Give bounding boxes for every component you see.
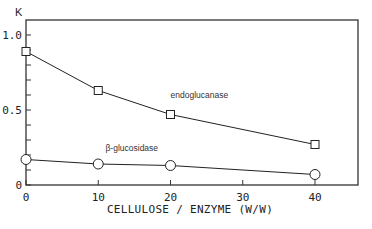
series-group: endoglucanaseβ-glucosidase bbox=[21, 48, 320, 180]
x-tick-label: 10 bbox=[92, 191, 105, 204]
series-label: β-glucosidase bbox=[105, 143, 158, 153]
y-tick-label: 0 bbox=[15, 179, 22, 192]
circle-marker bbox=[93, 159, 103, 169]
x-axis-title: CELLULOSE / ENZYME (W/W) bbox=[107, 203, 273, 216]
square-marker bbox=[167, 111, 175, 119]
square-marker bbox=[94, 87, 102, 95]
series-endoglucanase: endoglucanase bbox=[22, 48, 319, 149]
y-tick-label: 1.0 bbox=[2, 29, 22, 42]
x-axis-ticks: 010203040 bbox=[23, 180, 322, 204]
x-tick-label: 0 bbox=[23, 191, 30, 204]
square-marker bbox=[311, 141, 319, 149]
x-tick-label: 40 bbox=[308, 191, 321, 204]
series-label: endoglucanase bbox=[171, 90, 229, 100]
series-beta-glucosidase: β-glucosidase bbox=[21, 143, 320, 180]
circle-marker bbox=[21, 155, 31, 165]
chart: 00.51.0 010203040 K CELLULOSE / ENZYME (… bbox=[0, 0, 372, 229]
y-tick-label: 0.5 bbox=[2, 104, 22, 117]
circle-marker bbox=[166, 161, 176, 171]
y-axis-label: K bbox=[15, 6, 23, 18]
circle-marker bbox=[310, 170, 320, 180]
plot-border bbox=[26, 20, 358, 185]
plot-frame bbox=[26, 20, 358, 185]
square-marker bbox=[22, 48, 30, 56]
